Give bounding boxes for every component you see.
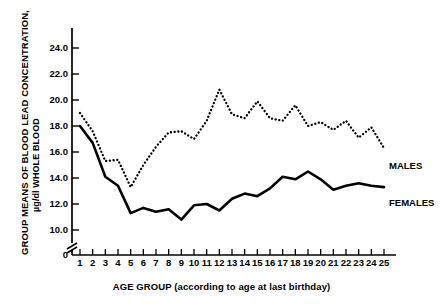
y-axis-ticks [72, 48, 79, 230]
x-axis-tick-label: 21 [328, 258, 339, 268]
x-axis-tick-label: 18 [290, 258, 301, 268]
series-label-males: MALES [389, 161, 422, 171]
x-axis-tick-label: 24 [366, 258, 377, 268]
x-axis-tick-label: 16 [265, 258, 276, 268]
x-axis-tick-label: 12 [214, 258, 225, 268]
y-axis-tick-label: 18.0 [34, 121, 68, 131]
x-axis-ticks [80, 249, 384, 255]
x-axis-tick-label: 20 [315, 258, 326, 268]
y-axis-tick-label: 12.0 [34, 199, 68, 209]
series-line-males [80, 90, 384, 188]
x-axis-tick-label: 17 [277, 258, 288, 268]
x-axis-tick-label: 7 [153, 258, 158, 268]
y-axis-tick-label: 22.0 [34, 69, 68, 79]
x-axis-tick-label: 6 [141, 258, 146, 268]
x-axis-tick-label: 10 [189, 258, 200, 268]
x-axis-tick-label: 22 [341, 258, 352, 268]
series-line-females [80, 126, 384, 220]
x-axis-tick-label: 15 [252, 258, 263, 268]
x-axis-title: AGE GROUP (according to age at last birt… [0, 281, 443, 292]
x-axis-tick-label: 13 [227, 258, 238, 268]
x-axis-tick-label: 14 [239, 258, 250, 268]
x-axis-tick-labels: 1234567891011121314151617181920212223242… [0, 258, 443, 272]
axes [67, 28, 396, 255]
x-axis-tick-label: 4 [115, 258, 120, 268]
data-series-layer [80, 90, 384, 220]
x-axis-tick-label: 19 [303, 258, 314, 268]
x-axis-tick-label: 8 [166, 258, 171, 268]
x-axis-tick-label: 1 [77, 258, 82, 268]
chart-figure: GROUP MEANS OF BLOOD LEAD CONCENTRATION,… [0, 0, 443, 304]
y-axis-tick-label: 20.0 [34, 95, 68, 105]
y-axis-title-line1: GROUP MEANS OF BLOOD LEAD CONCENTRATION, [20, 10, 30, 255]
x-axis-tick-label: 11 [202, 258, 212, 268]
x-axis-tick-label: 2 [90, 258, 95, 268]
series-label-females: FEMALES [389, 198, 434, 208]
y-axis-tick-label: 24.0 [34, 43, 68, 53]
y-axis-tick-label: 14.0 [34, 173, 68, 183]
x-axis-tick-label: 9 [179, 258, 184, 268]
x-axis-tick-label: 5 [128, 258, 133, 268]
x-axis-tick-label: 25 [379, 258, 390, 268]
y-axis-tick-label: 10.0 [34, 225, 68, 235]
y-axis-tick-label: 16.0 [34, 147, 68, 157]
x-axis-tick-label: 23 [353, 258, 364, 268]
x-axis-tick-label: 3 [103, 258, 108, 268]
